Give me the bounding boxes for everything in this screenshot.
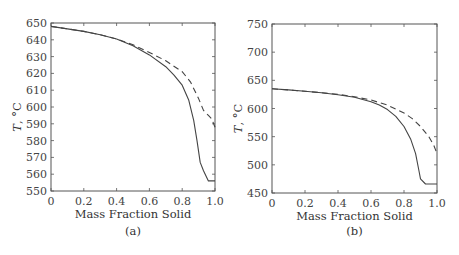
x-tick-label: 1.0 — [206, 195, 224, 208]
figure: 00.20.40.60.81.0550560570580590600610620… — [0, 0, 459, 255]
y-tick-label: 650 — [247, 74, 268, 87]
y-tick-label: 580 — [26, 135, 47, 148]
y-tick-label: 750 — [247, 18, 268, 31]
y-tick-label: 550 — [247, 131, 268, 144]
y-tick-label: 560 — [26, 168, 47, 181]
x-axis-label: Mass Fraction Solid — [296, 209, 413, 223]
y-tick-label: 620 — [26, 67, 47, 80]
y-tick-label: 650 — [26, 17, 47, 30]
y-tick-label: 500 — [247, 159, 268, 172]
y-tick-label: 600 — [26, 101, 47, 114]
y-axis-label: T, °C — [10, 102, 24, 132]
y-tick-label: 450 — [247, 187, 268, 200]
plot-frame — [272, 24, 437, 193]
y-tick-label: 550 — [26, 185, 47, 198]
y-tick-label: 610 — [26, 84, 47, 97]
panel-label: (b) — [346, 224, 362, 238]
y-tick-label: 630 — [26, 51, 47, 64]
x-tick-label: 1.0 — [428, 197, 446, 210]
x-tick-label: 0 — [48, 195, 55, 208]
y-tick-label: 590 — [26, 118, 47, 131]
y-tick-label: 570 — [26, 151, 47, 164]
y-tick-label: 600 — [247, 103, 268, 116]
y-tick-label: 700 — [247, 46, 268, 59]
series-solid-line — [272, 89, 437, 184]
chart-panel-a: 00.20.40.60.81.0550560570580590600610620… — [10, 17, 224, 238]
panel-label: (a) — [125, 224, 141, 238]
y-tick-label: 640 — [26, 34, 47, 47]
y-axis-label: T, °C — [231, 104, 245, 134]
series-solid-line — [51, 26, 215, 181]
chart-panel-b: 00.20.40.60.81.0450500550600650700750Mas… — [231, 18, 446, 238]
x-tick-label: 0 — [269, 197, 276, 210]
x-axis-label: Mass Fraction Solid — [75, 207, 192, 221]
series-dashed-line — [51, 26, 215, 127]
